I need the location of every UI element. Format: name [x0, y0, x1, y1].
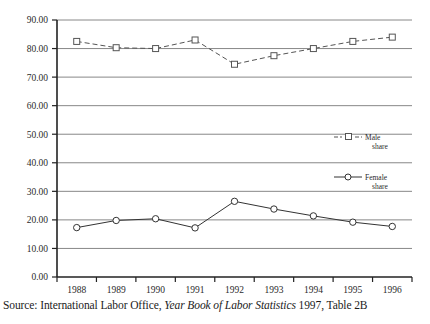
- data-point-marker: [389, 223, 395, 229]
- data-point-marker: [192, 225, 198, 231]
- data-point-marker: [271, 53, 277, 59]
- data-point-marker: [350, 219, 356, 225]
- series-male-share: [74, 34, 396, 67]
- data-point-marker: [350, 38, 356, 44]
- data-point-marker: [389, 34, 395, 40]
- legend-female-marker: [345, 174, 351, 180]
- data-point-marker: [192, 37, 198, 43]
- y-tick-label: 10.00: [27, 244, 49, 254]
- line-chart: 0.0010.0020.0030.0040.0050.0060.0070.008…: [0, 0, 430, 324]
- figure-container: 0.0010.0020.0030.0040.0050.0060.0070.008…: [0, 0, 430, 324]
- x-axis-ticks: 198819891990199119921993199419951996: [57, 277, 412, 295]
- y-axis-ticks: 0.0010.0020.0030.0040.0050.0060.0070.008…: [27, 15, 57, 282]
- gridlines-group: [57, 20, 412, 248]
- data-point-marker: [113, 45, 119, 51]
- y-tick-label: 0.00: [31, 272, 48, 282]
- x-tick-label: 1994: [304, 285, 323, 295]
- data-point-marker: [310, 213, 316, 219]
- source-caption: Source: International Labor Office, Year…: [3, 299, 427, 311]
- legend-male-label-line2: share: [372, 142, 388, 151]
- data-point-marker: [232, 61, 238, 67]
- caption-publication-title: Year Book of Labor Statistics: [164, 299, 296, 311]
- y-tick-label: 20.00: [27, 215, 49, 225]
- caption-prefix: Source: International Labor Office,: [3, 299, 162, 311]
- legend-female-label-line2: share: [372, 182, 388, 191]
- data-point-marker: [113, 217, 119, 223]
- data-point-marker: [271, 206, 277, 212]
- y-tick-label: 60.00: [27, 101, 49, 111]
- data-point-marker: [152, 216, 158, 222]
- legend-male-label-line1: Male: [365, 133, 381, 142]
- legend-female-label-line1: Female: [365, 173, 388, 182]
- legend-item-male: Male share: [334, 133, 388, 151]
- series-female-share: [74, 198, 396, 231]
- chart-legend: Male share Female share: [334, 133, 388, 191]
- x-tick-label: 1995: [343, 285, 362, 295]
- series-line: [77, 201, 393, 228]
- y-tick-label: 50.00: [27, 130, 49, 140]
- data-point-marker: [74, 224, 80, 230]
- data-point-marker: [74, 38, 80, 44]
- y-tick-label: 40.00: [27, 158, 49, 168]
- x-tick-label: 1992: [225, 285, 244, 295]
- data-point-marker: [231, 198, 237, 204]
- x-tick-label: 1989: [107, 285, 126, 295]
- legend-item-female: Female share: [334, 173, 388, 191]
- caption-suffix: 1997, Table 2B: [299, 299, 368, 311]
- x-tick-label: 1990: [146, 285, 165, 295]
- x-tick-label: 1993: [264, 285, 283, 295]
- x-tick-label: 1996: [383, 285, 402, 295]
- data-point-marker: [153, 46, 159, 52]
- axes-group: [57, 20, 412, 277]
- y-tick-label: 30.00: [27, 187, 49, 197]
- y-tick-label: 80.00: [27, 44, 49, 54]
- y-tick-label: 70.00: [27, 73, 49, 83]
- x-tick-label: 1991: [186, 285, 205, 295]
- data-point-marker: [310, 46, 316, 52]
- y-tick-label: 90.00: [27, 15, 49, 25]
- series-line: [77, 37, 393, 64]
- legend-male-marker: [346, 134, 352, 140]
- x-tick-label: 1988: [67, 285, 86, 295]
